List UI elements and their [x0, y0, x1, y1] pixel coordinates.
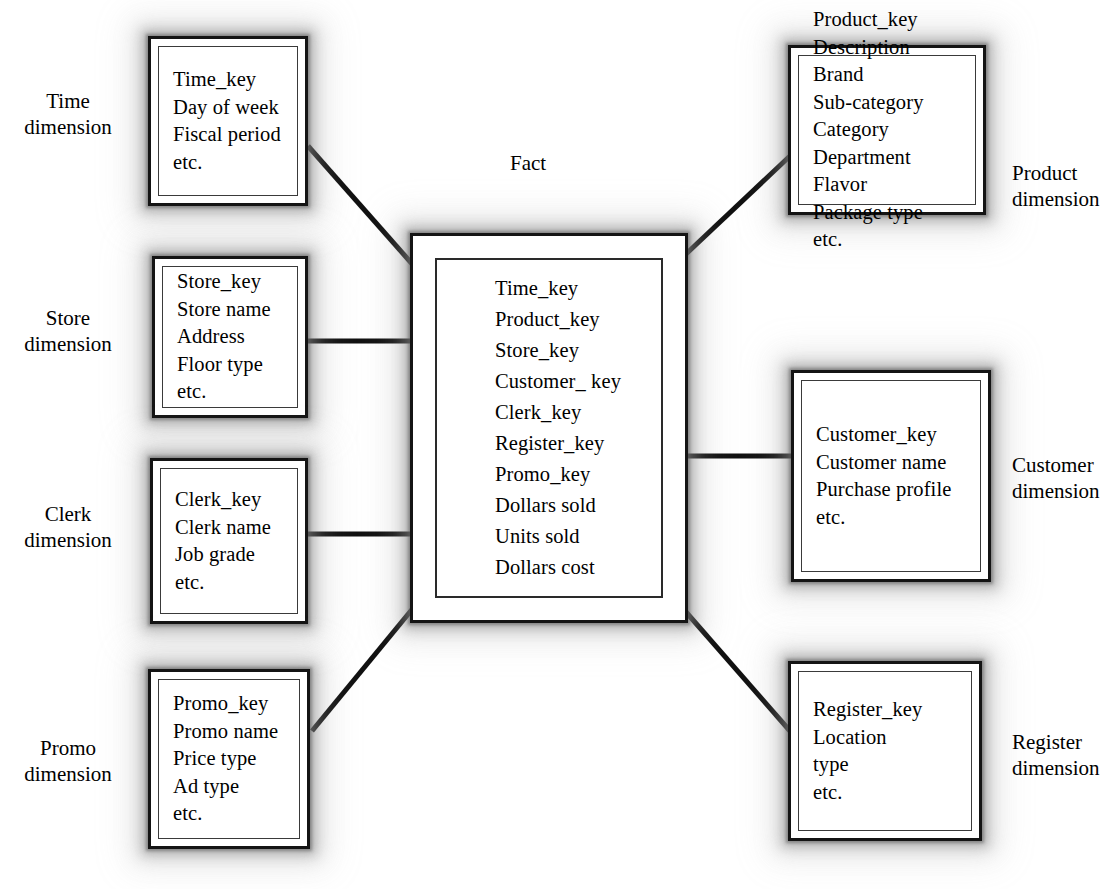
field-list-time: Time_key Day of week Fiscal period etc.: [173, 66, 297, 176]
field-item: Store_key: [495, 335, 661, 366]
label-clerk-dimension: Clerk dimension: [0, 501, 138, 553]
label-store-line1: Store: [0, 305, 138, 331]
field-list-clerk: Clerk_key Clerk name Job grade etc.: [175, 486, 297, 596]
field-list-customer: Customer_key Customer name Purchase prof…: [816, 421, 980, 531]
connector-time-fact: [308, 146, 414, 266]
field-item: etc.: [173, 800, 299, 828]
dimension-box-product[interactable]: Product_key Description Brand Sub-catego…: [788, 45, 986, 215]
field-list-store: Store_key Store name Address Floor type …: [177, 268, 297, 406]
field-item: Package type: [813, 199, 975, 227]
field-item: Store name: [177, 296, 297, 324]
field-item: Clerk_key: [175, 486, 297, 514]
field-item: Time_key: [495, 273, 661, 304]
field-item: Customer name: [816, 449, 980, 477]
field-item: Job grade: [175, 541, 297, 569]
connector-fact-register: [686, 612, 790, 731]
dimension-box-store-inner: Store_key Store name Address Floor type …: [162, 266, 298, 408]
label-customer-dimension: Customer dimension: [1012, 452, 1112, 504]
field-item: etc.: [813, 226, 975, 254]
fact-table-box[interactable]: Time_key Product_key Store_key Customer_…: [410, 233, 688, 623]
field-item: Department: [813, 144, 975, 172]
field-item: Customer_key: [816, 421, 980, 449]
field-item: Dollars cost: [495, 552, 661, 583]
field-item: Store_key: [177, 268, 297, 296]
field-item: Flavor: [813, 171, 975, 199]
field-item: Promo_key: [495, 459, 661, 490]
field-item: Product_key: [813, 6, 975, 34]
field-item: Price type: [173, 745, 299, 773]
field-item: Category: [813, 116, 975, 144]
field-item: Customer_ key: [495, 366, 661, 397]
field-item: etc.: [813, 779, 971, 807]
field-item: Address: [177, 323, 297, 351]
field-item: Floor type: [177, 351, 297, 379]
label-promo-line1: Promo: [0, 735, 138, 761]
label-customer-line2: dimension: [1012, 478, 1112, 504]
dimension-box-clerk[interactable]: Clerk_key Clerk name Job grade etc.: [150, 458, 308, 624]
dimension-box-customer[interactable]: Customer_key Customer name Purchase prof…: [791, 370, 991, 582]
star-schema-diagram: Time dimension Store dimension Clerk dim…: [0, 0, 1112, 889]
field-item: Purchase profile: [816, 476, 980, 504]
label-promo-line2: dimension: [0, 761, 138, 787]
field-item: Promo name: [173, 718, 299, 746]
dimension-box-customer-inner: Customer_key Customer name Purchase prof…: [801, 380, 981, 572]
field-item: etc.: [816, 504, 980, 532]
label-product-line2: dimension: [1012, 186, 1112, 212]
field-list-promo: Promo_key Promo name Price type Ad type …: [173, 690, 299, 828]
field-item: Register_key: [813, 696, 971, 724]
field-list-product: Product_key Description Brand Sub-catego…: [813, 6, 975, 254]
label-register-line2: dimension: [1012, 755, 1112, 781]
dimension-box-register[interactable]: Register_key Location type etc.: [788, 661, 982, 841]
field-item: etc.: [177, 378, 297, 406]
dimension-box-promo-inner: Promo_key Promo name Price type Ad type …: [158, 679, 300, 839]
label-register-line1: Register: [1012, 729, 1112, 755]
fact-label: Fact: [510, 150, 546, 176]
field-item: Clerk name: [175, 514, 297, 542]
dimension-box-promo[interactable]: Promo_key Promo name Price type Ad type …: [148, 669, 310, 849]
label-time-line1: Time: [0, 88, 138, 114]
field-item: Clerk_key: [495, 397, 661, 428]
field-item: Units sold: [495, 521, 661, 552]
field-item: etc.: [173, 149, 297, 177]
field-item: Dollars sold: [495, 490, 661, 521]
dimension-box-register-inner: Register_key Location type etc.: [798, 671, 972, 831]
label-time-dimension: Time dimension: [0, 88, 138, 140]
field-item: Day of week: [173, 94, 297, 122]
label-store-dimension: Store dimension: [0, 305, 138, 357]
label-time-line2: dimension: [0, 114, 138, 140]
field-item: type: [813, 751, 971, 779]
dimension-box-store[interactable]: Store_key Store name Address Floor type …: [152, 256, 308, 418]
label-clerk-line2: dimension: [0, 527, 138, 553]
label-product-line1: Product: [1012, 160, 1112, 186]
field-item: etc.: [175, 569, 297, 597]
dimension-box-clerk-inner: Clerk_key Clerk name Job grade etc.: [160, 468, 298, 614]
field-item: Promo_key: [173, 690, 299, 718]
field-item: Ad type: [173, 773, 299, 801]
dimension-box-time[interactable]: Time_key Day of week Fiscal period etc.: [148, 36, 308, 206]
field-item: Location: [813, 724, 971, 752]
field-list-fact: Time_key Product_key Store_key Customer_…: [495, 273, 661, 583]
field-list-register: Register_key Location type etc.: [813, 696, 971, 806]
label-customer-line1: Customer: [1012, 452, 1112, 478]
field-item: Fiscal period: [173, 121, 297, 149]
field-item: Sub-category: [813, 89, 975, 117]
field-item: Brand: [813, 61, 975, 89]
field-item: Description: [813, 34, 975, 62]
connector-promo-fact: [312, 607, 414, 731]
fact-table-inner: Time_key Product_key Store_key Customer_…: [435, 258, 663, 598]
field-item: Time_key: [173, 66, 297, 94]
field-item: Product_key: [495, 304, 661, 335]
label-promo-dimension: Promo dimension: [0, 735, 138, 787]
label-register-dimension: Register dimension: [1012, 729, 1112, 781]
dimension-box-time-inner: Time_key Day of week Fiscal period etc.: [158, 46, 298, 196]
label-product-dimension: Product dimension: [1012, 160, 1112, 212]
field-item: Register_key: [495, 428, 661, 459]
connector-fact-product: [686, 156, 790, 254]
label-clerk-line1: Clerk: [0, 501, 138, 527]
label-store-line2: dimension: [0, 331, 138, 357]
dimension-box-product-inner: Product_key Description Brand Sub-catego…: [798, 55, 976, 205]
